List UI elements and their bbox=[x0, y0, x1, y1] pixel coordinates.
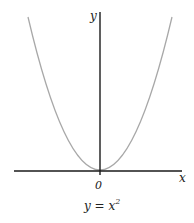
origin-label: 0 bbox=[95, 179, 102, 192]
function-caption: y = x2 bbox=[83, 197, 120, 213]
y-axis-label: y bbox=[89, 9, 97, 23]
caption-base: y = x bbox=[83, 199, 115, 213]
x-axis-label: x bbox=[179, 171, 186, 185]
caption-exponent: 2 bbox=[114, 197, 120, 206]
parabola-diagram: y x 0 y = x2 bbox=[0, 0, 194, 223]
